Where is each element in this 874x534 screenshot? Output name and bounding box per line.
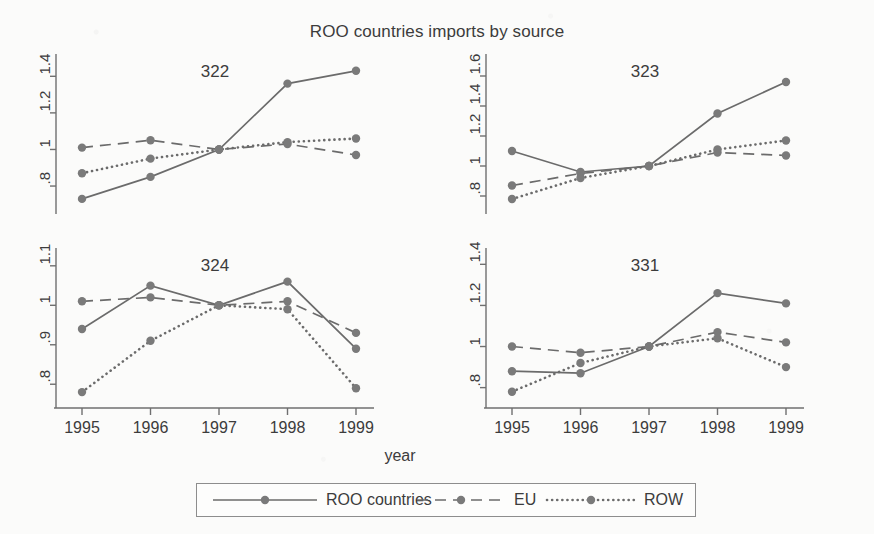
data-point (782, 299, 790, 307)
data-point (508, 388, 516, 396)
chart-title: ROO countries imports by source (0, 22, 874, 42)
data-point (576, 168, 584, 176)
data-point (713, 148, 721, 156)
data-point (352, 151, 360, 159)
legend-item-roo-countries[interactable]: ROO countries (211, 484, 432, 516)
data-point (645, 342, 653, 350)
legend-item-eu[interactable]: EU (415, 484, 536, 516)
data-point (146, 293, 154, 301)
data-point (215, 145, 223, 153)
data-point (782, 151, 790, 159)
legend-marker (261, 496, 269, 504)
x-axis-title: year (330, 447, 470, 465)
series-line-row (82, 305, 356, 392)
series-line-eu (512, 332, 786, 353)
panel-title-324: 324 (185, 256, 245, 276)
panel-title-322: 322 (185, 62, 245, 82)
data-point (352, 345, 360, 353)
data-point (713, 289, 721, 297)
data-point (283, 277, 291, 285)
data-point (146, 136, 154, 144)
x-tick-label: 1998 (258, 419, 318, 437)
data-point (78, 143, 86, 151)
data-point (215, 301, 223, 309)
x-tick-label: 1997 (619, 419, 679, 437)
data-point (283, 138, 291, 146)
data-point (508, 181, 516, 189)
chart-legend: ROO countriesEUROW (196, 483, 696, 517)
data-point (576, 169, 584, 177)
series-line-eu (512, 153, 786, 186)
series-line-eu (82, 297, 356, 333)
series-line-row (512, 338, 786, 391)
data-point (283, 79, 291, 87)
data-point (782, 363, 790, 371)
data-point (713, 328, 721, 336)
series-line-row (512, 141, 786, 200)
chart-figure: ROO countries imports by source .811.21.… (0, 0, 874, 534)
legend-marker (587, 496, 595, 504)
legend-label: ROW (644, 491, 683, 509)
data-point (576, 369, 584, 377)
data-point (283, 140, 291, 148)
data-point (713, 109, 721, 117)
panel-title-331: 331 (615, 256, 675, 276)
data-point (146, 281, 154, 289)
data-point (782, 78, 790, 86)
data-point (146, 154, 154, 162)
legend-marker (457, 496, 465, 504)
legend-swatch-solid (211, 492, 319, 508)
data-point (215, 145, 223, 153)
data-point (352, 134, 360, 142)
legend-label: EU (514, 491, 536, 509)
x-tick-label: 1996 (551, 419, 611, 437)
data-point (78, 325, 86, 333)
series-line-roo-countries (82, 71, 356, 199)
data-point (78, 195, 86, 203)
x-tick-label: 1998 (688, 419, 748, 437)
data-point (645, 162, 653, 170)
data-point (78, 169, 86, 177)
x-tick-label: 1996 (121, 419, 181, 437)
legend-swatch-dashed (415, 492, 507, 508)
legend-swatch-dotted (545, 492, 637, 508)
data-point (215, 301, 223, 309)
data-point (713, 334, 721, 342)
data-point (508, 367, 516, 375)
data-point (782, 136, 790, 144)
series-line-roo-countries (512, 293, 786, 373)
x-tick-label: 1997 (189, 419, 249, 437)
series-line-roo-countries (512, 82, 786, 172)
data-point (713, 145, 721, 153)
data-point (78, 388, 86, 396)
data-point (645, 162, 653, 170)
series-line-row (82, 139, 356, 174)
data-point (352, 329, 360, 337)
data-point (215, 301, 223, 309)
data-point (576, 359, 584, 367)
series-line-eu (82, 140, 356, 155)
data-point (576, 174, 584, 182)
data-point (576, 349, 584, 357)
data-point (508, 195, 516, 203)
data-point (645, 162, 653, 170)
data-point (352, 384, 360, 392)
series-line-roo-countries (82, 282, 356, 349)
x-tick-label: 1995 (52, 419, 112, 437)
data-point (508, 147, 516, 155)
data-point (283, 305, 291, 313)
panel-title-323: 323 (615, 62, 675, 82)
data-point (508, 342, 516, 350)
data-point (215, 145, 223, 153)
data-point (283, 297, 291, 305)
data-point (146, 173, 154, 181)
x-tick-label: 1999 (326, 419, 386, 437)
x-tick-label: 1999 (756, 419, 816, 437)
data-point (645, 342, 653, 350)
data-point (78, 297, 86, 305)
data-point (782, 338, 790, 346)
data-point (146, 337, 154, 345)
legend-item-row[interactable]: ROW (545, 484, 683, 516)
x-tick-label: 1995 (482, 419, 542, 437)
data-point (645, 342, 653, 350)
